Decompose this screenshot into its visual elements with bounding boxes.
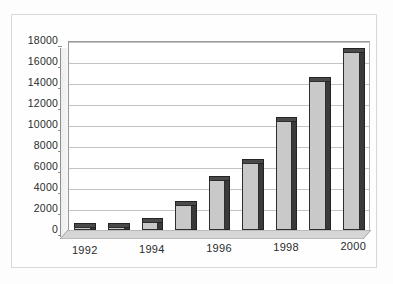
bar-1999 [309, 76, 326, 230]
bar-2000 [343, 47, 360, 231]
x-axis-tick-label: 1994 [134, 243, 170, 255]
bar-front-face [309, 81, 326, 230]
y-axis-tick-label: 2000 [8, 202, 58, 214]
y-axis-tick-label: 14000 [8, 76, 58, 88]
bar-series [68, 41, 370, 230]
y-axis-tick [58, 46, 62, 47]
bar-1996 [209, 175, 226, 230]
y-axis-tick-label: 6000 [8, 160, 58, 172]
bar-1994 [142, 217, 159, 230]
bar-front-face [343, 52, 360, 231]
y-axis-tick-label: 4000 [8, 181, 58, 193]
y-axis-tick-label: 8000 [8, 139, 58, 151]
bar-1998 [276, 116, 293, 230]
chart-floor [60, 230, 371, 239]
bar-front-face [142, 222, 159, 230]
x-axis-tick-label: 2000 [335, 240, 371, 252]
floor-surface [60, 230, 371, 239]
x-axis-tick-label: 1998 [268, 241, 304, 253]
y-axis-tick-label: 10000 [8, 118, 58, 130]
bar-front-face [108, 227, 125, 230]
bar-front-face [276, 121, 293, 230]
x-axis-tick-label: 1996 [201, 242, 237, 254]
bar-front-face [74, 227, 91, 230]
bar-1992 [74, 222, 91, 230]
y-axis-tick-label: 16000 [8, 55, 58, 67]
x-axis-tick-label: 1992 [67, 244, 103, 256]
bar-1995 [175, 200, 192, 230]
bar-1993 [108, 222, 125, 230]
bar-front-face [242, 163, 259, 230]
y-axis-tick-label: 12000 [8, 97, 58, 109]
y-axis-tick-label: 0 [8, 223, 58, 235]
chart-page: 1800016000140001200010000800060004000200… [0, 0, 393, 284]
bar-front-face [175, 205, 192, 230]
y-axis-tick-label: 18000 [8, 34, 58, 46]
bar-chart: 1800016000140001200010000800060004000200… [0, 0, 393, 284]
bar-front-face [209, 180, 226, 230]
bar-1997 [242, 158, 259, 230]
